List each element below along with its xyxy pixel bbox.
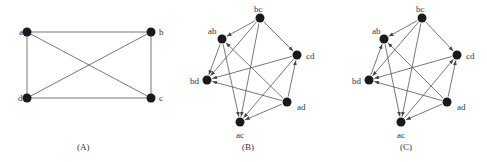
node-label-ac: ac [397,130,405,140]
node-ac [236,118,245,127]
node-label-bc: bc [254,4,263,14]
node-label-ac: ac [236,130,244,140]
arc-ad-cd [288,60,296,96]
arc-ad-bd [374,81,441,100]
node-bc [418,14,427,23]
node-ab [218,35,227,44]
node-label-ad: ad [457,102,466,112]
node-ab [380,35,389,44]
node-label-cd: cd [306,51,315,61]
node-label-c: c [159,93,163,103]
node-d [23,94,32,103]
arc-ab-ac [385,44,400,116]
panel-a-edges [27,32,151,98]
node-a [23,28,32,37]
node-label-ab: ab [372,26,381,36]
graph-figure: abcd(A)bcabcdbdadac(B)bcabcdbdadac(C) [0,0,487,162]
edges-layer [27,21,456,120]
node-label-bd: bd [352,76,362,86]
node-c [147,94,156,103]
node-label-cd: cd [466,51,475,61]
node-label-bd: bd [190,76,200,86]
node-cd [293,51,302,60]
arc-ad-ab [226,43,283,98]
node-cd [453,51,462,60]
node-bc [256,14,265,23]
node-label-b: b [159,27,164,37]
panel-caption-c: (C) [400,142,412,152]
panel-caption-b: (B) [242,142,254,152]
panel-caption-a: (A) [77,142,90,152]
node-label-a: a [19,27,23,37]
arc-ad-ac [406,104,442,120]
node-label-d: d [18,93,23,103]
arc-bc-cd [426,22,453,51]
node-label-bc: bc [416,4,425,14]
arc-bc-cd [264,22,293,51]
node-b [147,28,156,37]
arc-ab-bd [209,44,220,75]
arc-ab-ac [223,44,239,116]
node-bd [365,76,374,85]
node-ad [283,98,292,107]
node-label-ad: ad [297,102,306,112]
arc-bd-ab [371,44,382,75]
node-bd [203,76,212,85]
node-ac [397,118,406,127]
arc-ad-ac [245,104,282,120]
node-label-ab: ab [208,26,217,36]
node-ad [443,98,452,107]
arc-ad-cd [448,60,456,96]
